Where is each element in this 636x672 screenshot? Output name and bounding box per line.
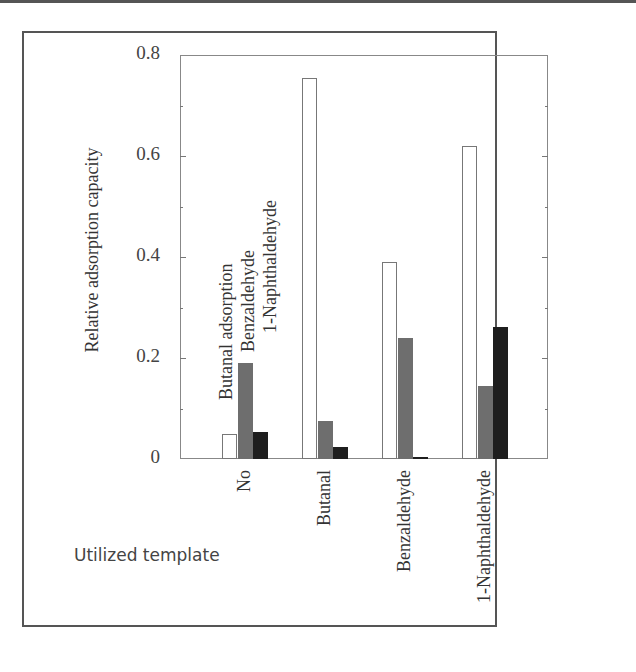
bar-1-naphthaldehyde-butanal-adsorption [462,146,477,459]
x-axis-label: Utilized template [74,545,220,565]
y-tick-label: 0.8 [110,42,160,64]
y-tick-label: 0 [110,446,160,468]
y-axis-label: Relative adsorption capacity [82,148,103,353]
y-tick-mark [180,308,183,309]
x-category-label: Butanal [314,470,335,526]
bar-benzaldehyde-benzaldehyde [398,338,413,459]
x-category-label: 1-Naphthaldehyde [474,470,495,603]
y-tick-mark [180,207,183,208]
bar-butanal-1-naphthaldehyde [333,447,348,459]
bar-no-1-naphthaldehyde [253,432,268,459]
bar-1-naphthaldehyde-1-naphthaldehyde [493,327,508,459]
top-border-line [0,0,636,3]
x-category-label: Benzaldehyde [394,470,415,572]
bar-butanal-butanal-adsorption [302,78,317,459]
bar-butanal-benzaldehyde [318,421,333,459]
y-tick-mark [545,409,548,410]
y-tick-mark [180,358,186,359]
bar-benzaldehyde-butanal-adsorption [382,262,397,459]
y-tick-mark [180,409,183,410]
y-tick-mark [545,106,548,107]
y-tick-mark [542,358,548,359]
y-tick-mark [545,207,548,208]
y-tick-label: 0.4 [110,244,160,266]
y-tick-mark [545,308,548,309]
x-category-label: No [234,470,255,492]
legend-label: Butanal adsorption [216,264,237,400]
bar-1-naphthaldehyde-benzaldehyde [478,386,493,459]
y-tick-mark [180,156,186,157]
bar-no-butanal-adsorption [222,434,237,459]
bar-benzaldehyde-1-naphthaldehyde [413,457,428,459]
y-tick-mark [180,106,183,107]
y-tick-mark [180,257,186,258]
legend-label: 1-Naphthaldehyde [260,200,281,333]
y-tick-mark [542,257,548,258]
bar-no-benzaldehyde [238,363,253,459]
y-tick-mark [542,156,548,157]
legend-label: Benzaldehyde [238,250,259,352]
y-tick-label: 0.2 [110,345,160,367]
y-tick-label: 0.6 [110,143,160,165]
